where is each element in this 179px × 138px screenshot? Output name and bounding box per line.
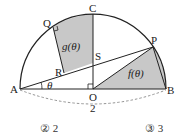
choice-3: ③ 3 (145, 122, 164, 134)
choice-2: ② 2 (40, 122, 58, 134)
length-label: 2 (90, 102, 96, 114)
angle-arc-A (41, 82, 42, 89)
region-f-label: f(θ) (128, 67, 144, 80)
right-angle-mark-O (88, 84, 93, 89)
point-label-C: C (89, 2, 96, 14)
region-g-label: g(θ) (62, 40, 81, 53)
point-label-S: S (95, 50, 101, 62)
angle-theta-label: θ (47, 79, 53, 91)
point-label-R: R (55, 66, 63, 78)
point-label-A: A (10, 83, 18, 95)
semicircle-diagram: A B O C P Q R S θ g(θ) f(θ) 2 ② 2 ③ 3 (0, 0, 179, 138)
point-label-P: P (151, 34, 157, 46)
point-label-Q: Q (43, 17, 51, 29)
point-label-B: B (167, 84, 174, 96)
